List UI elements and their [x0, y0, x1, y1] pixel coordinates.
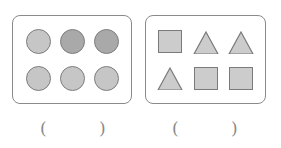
triangle-shape [157, 67, 183, 90]
square-shape [158, 30, 182, 53]
circle-shape [60, 66, 85, 91]
answer-a-close-paren: ) [99, 118, 106, 138]
triangle-shape [193, 31, 219, 54]
answer-a-open-paren: ( [40, 118, 47, 138]
circle-shape [60, 29, 85, 54]
circle-shape [94, 66, 119, 91]
triangle-shape [228, 31, 254, 54]
square-shape [229, 67, 253, 90]
answer-b-open-paren: ( [172, 118, 179, 138]
square-shape [194, 67, 218, 90]
answer-b-close-paren: ) [231, 118, 238, 138]
shape-group-box [145, 15, 266, 104]
circle-shape [94, 29, 119, 54]
circle-shape [26, 66, 51, 91]
circle-shape [26, 29, 51, 54]
